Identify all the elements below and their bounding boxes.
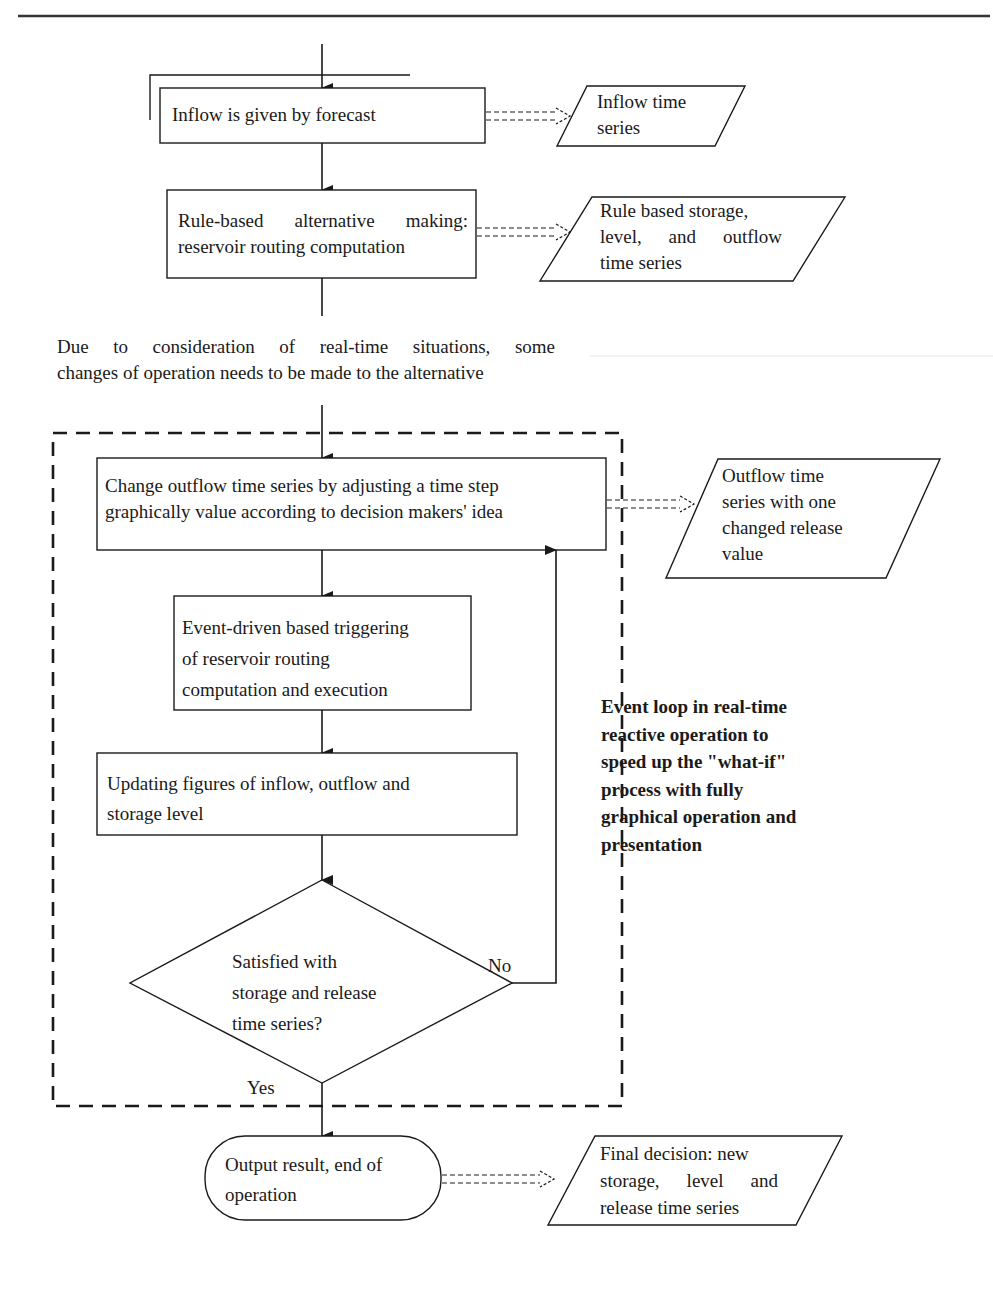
decision-line3: time series? (232, 1008, 452, 1039)
rule-series-label: Rule based storage, level, and outflow t… (600, 198, 790, 276)
decision-label: Satisfied with storage and release time … (232, 946, 452, 1039)
transition-note-line2: changes of operation needs to be made to… (57, 360, 555, 386)
change-outflow-line1: Change outflow time series by adjusting … (105, 473, 605, 499)
event-driven-line1: Event-driven based triggering (182, 612, 467, 643)
inflow-series-line2: series (597, 115, 737, 141)
decision-line1: Satisfied with (232, 946, 452, 977)
changed-series-line4: value (722, 541, 892, 567)
event-loop-note-line3: speed up the "what-if" (601, 748, 861, 776)
no-branch-label: No (488, 955, 511, 977)
rule-based-label: Rule-based alternative making: reservoir… (178, 208, 468, 260)
rule-based-line1: Rule-based alternative making: (178, 208, 468, 234)
final-decision-line2: storage, level and (600, 1167, 778, 1194)
updating-figures-label: Updating figures of inflow, outflow and … (107, 769, 517, 829)
event-loop-note: Event loop in real-time reactive operati… (601, 693, 861, 858)
transition-note: Due to consideration of real-time situat… (57, 334, 555, 386)
dashed-arrow-to-rule-series (477, 224, 570, 240)
change-outflow-label: Change outflow time series by adjusting … (105, 473, 605, 525)
rule-series-line1: Rule based storage, (600, 198, 790, 224)
dashed-arrow-to-changed-series (607, 496, 694, 512)
rule-based-line2: reservoir routing computation (178, 234, 468, 260)
inflow-series-label: Inflow time series (597, 89, 737, 141)
event-loop-note-line4: process with fully (601, 776, 861, 804)
updating-figures-line2: storage level (107, 799, 517, 829)
event-driven-line3: computation and execution (182, 674, 467, 705)
changed-series-line1: Outflow time (722, 463, 892, 489)
final-decision-label: Final decision: new storage, level and r… (600, 1140, 790, 1221)
event-driven-label: Event-driven based triggering of reservo… (182, 612, 467, 705)
dashed-arrow-to-final-decision (442, 1171, 554, 1187)
no-loop-line (512, 550, 556, 983)
changed-series-label: Outflow time series with one changed rel… (722, 463, 892, 567)
event-loop-note-line2: reactive operation to (601, 721, 861, 749)
updating-figures-line1: Updating figures of inflow, outflow and (107, 769, 517, 799)
inflow-series-line1: Inflow time (597, 89, 737, 115)
transition-note-line1: Due to consideration of real-time situat… (57, 334, 555, 360)
flowchart-canvas (0, 0, 993, 1297)
event-loop-note-line1: Event loop in real-time (601, 693, 861, 721)
output-result-line1: Output result, end of (225, 1150, 435, 1180)
final-decision-line1: Final decision: new (600, 1140, 790, 1167)
changed-series-line3: changed release (722, 515, 892, 541)
changed-series-line2: series with one (722, 489, 892, 515)
decision-line2: storage and release (232, 977, 452, 1008)
final-decision-line3: release time series (600, 1194, 790, 1221)
event-driven-line2: of reservoir routing (182, 643, 467, 674)
rule-series-line3: time series (600, 250, 790, 276)
yes-branch-label: Yes (247, 1077, 275, 1099)
output-result-label: Output result, end of operation (225, 1150, 435, 1210)
rule-series-line2: level, and outflow (600, 224, 782, 250)
output-result-line2: operation (225, 1180, 435, 1210)
event-loop-note-line5: graphical operation and (601, 803, 861, 831)
change-outflow-line2: graphically value according to decision … (105, 499, 605, 525)
dashed-arrow-to-inflow-series (486, 108, 570, 124)
event-loop-note-line6: presentation (601, 831, 861, 859)
inflow-forecast-label: Inflow is given by forecast (172, 102, 472, 128)
